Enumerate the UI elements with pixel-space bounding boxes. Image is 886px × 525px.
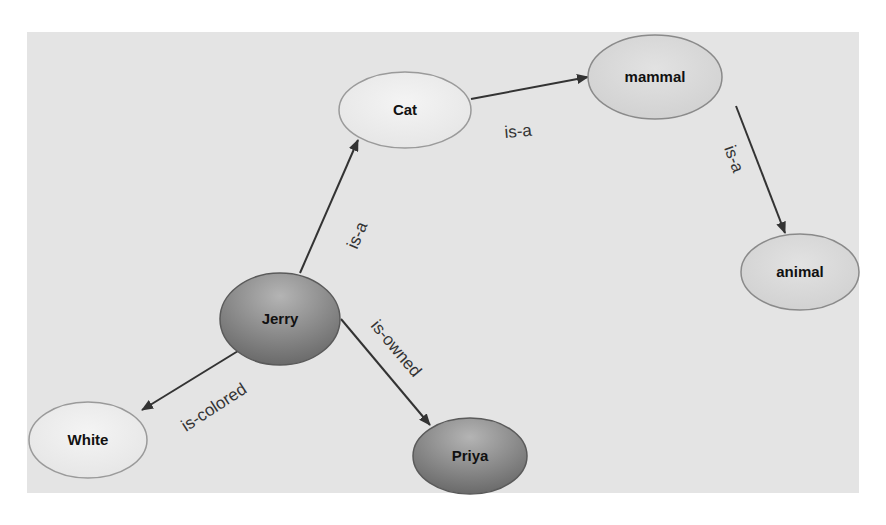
node-priya[interactable]: Priya	[413, 418, 527, 494]
edge-label-cat-mammal: is-a	[504, 121, 533, 142]
node-label-mammal: mammal	[625, 68, 686, 85]
node-mammal[interactable]: mammal	[588, 35, 722, 119]
node-label-animal: animal	[776, 263, 824, 280]
semantic-network-diagram: is-a is-a is-a is-colored is-owned Cat m…	[0, 0, 886, 525]
node-label-cat: Cat	[393, 101, 417, 118]
diagram-canvas: is-a is-a is-a is-colored is-owned Cat m…	[0, 0, 886, 525]
node-white[interactable]: White	[29, 402, 147, 478]
node-cat[interactable]: Cat	[339, 72, 471, 148]
node-jerry[interactable]: Jerry	[220, 273, 340, 365]
node-label-priya: Priya	[452, 447, 489, 464]
node-label-white: White	[68, 431, 109, 448]
node-animal[interactable]: animal	[741, 234, 859, 310]
node-label-jerry: Jerry	[262, 310, 299, 327]
